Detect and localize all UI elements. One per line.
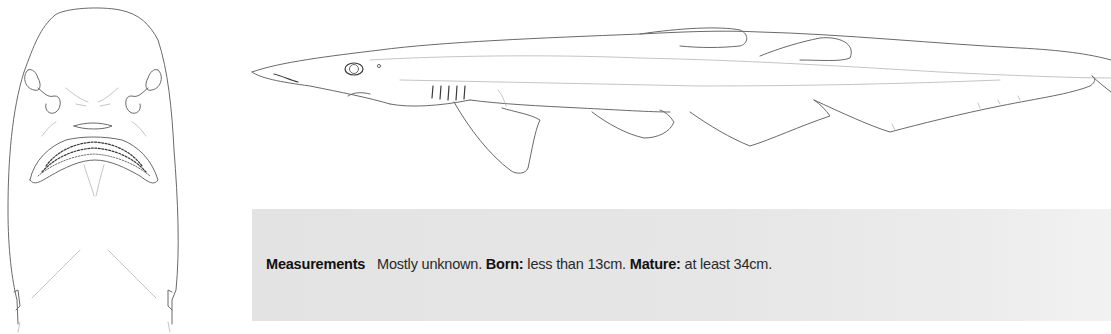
shark-ventral-illustration [0, 0, 240, 334]
pelvic-fin [592, 110, 674, 138]
mature-value: at least 34cm. [685, 256, 772, 272]
ventral-head-outline [8, 8, 178, 324]
born-value: less than 13cm. [527, 256, 626, 272]
shark-lateral-illustration [240, 20, 1111, 190]
measurements-text: Measurements Mostly unknown. Born: less … [266, 256, 772, 272]
measurements-panel: Measurements Mostly unknown. Born: less … [252, 209, 1111, 321]
mature-label: Mature: [630, 256, 681, 272]
pectoral-fin [454, 102, 540, 173]
born-label: Born: [486, 256, 524, 272]
second-dorsal-fin [760, 38, 851, 61]
anal-fin [690, 100, 830, 146]
measurements-summary: Mostly unknown. [377, 256, 482, 272]
measurements-heading: Measurements [266, 256, 365, 272]
